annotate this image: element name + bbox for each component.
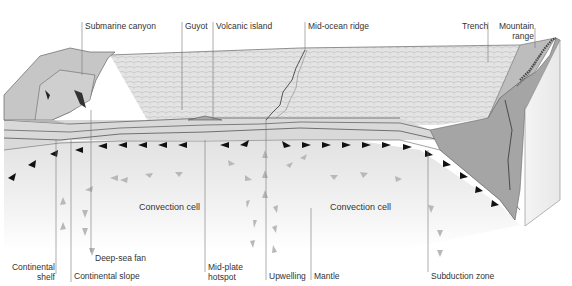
label-mid-plate: Mid-plate bbox=[208, 262, 243, 272]
label-submarine-canyon: Submarine canyon bbox=[85, 21, 156, 31]
label-continental: Continental bbox=[0, 262, 55, 272]
label-upwelling: Upwelling bbox=[269, 271, 306, 281]
ocean-floor bbox=[110, 45, 520, 125]
label-shelf: shelf bbox=[0, 272, 55, 282]
label-mantle: Mantle bbox=[314, 271, 340, 281]
label-continental-slope: Continental slope bbox=[74, 271, 140, 281]
label-volcanic-island: Volcanic island bbox=[216, 21, 272, 31]
label-convection-cell-left: Convection cell bbox=[139, 202, 200, 212]
label-mountain: Mountain bbox=[498, 21, 534, 31]
tectonics-diagram bbox=[0, 0, 572, 286]
label-guyot: Guyot bbox=[185, 21, 208, 31]
mantle-region bbox=[4, 140, 520, 250]
label-convection-cell-right: Convection cell bbox=[330, 202, 391, 212]
label-subduction-zone: Subduction zone bbox=[431, 271, 494, 281]
label-deep-sea-fan: Deep-sea fan bbox=[95, 253, 146, 263]
label-trench: Trench bbox=[462, 21, 488, 31]
continent-left bbox=[4, 48, 115, 124]
label-mid-ocean-ridge: Mid-ocean ridge bbox=[308, 21, 369, 31]
label-range: range bbox=[498, 31, 534, 41]
label-hotspot: hotspot bbox=[208, 272, 236, 282]
